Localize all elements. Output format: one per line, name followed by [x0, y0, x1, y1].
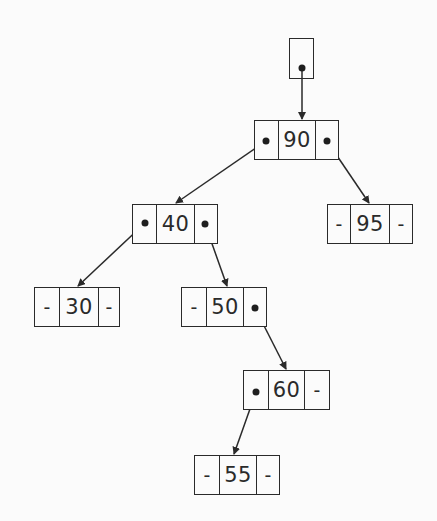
pointer-dot-icon	[142, 220, 149, 227]
pointer-dot-icon	[202, 221, 209, 228]
pointer-dot-icon	[263, 138, 270, 145]
pointer-dot-icon	[253, 389, 260, 396]
pointer-dot-icon	[324, 138, 331, 145]
root-pointer-dot-icon	[299, 65, 306, 72]
pointer-dots-layer	[0, 0, 437, 521]
pointer-dot-icon	[252, 305, 259, 312]
